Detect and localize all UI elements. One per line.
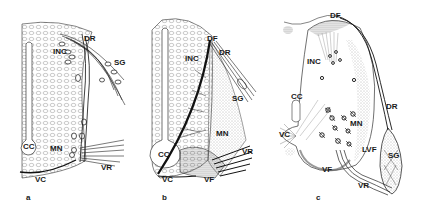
panel-b-label-mn: MN [216,130,228,138]
panel-a-label-mn: MN [50,145,62,153]
panel-b-letter: b [162,193,167,202]
panel-a-drawing [20,22,125,178]
panel-b-label-df: DF [207,35,218,43]
panel-a-label-sg: SG [114,59,126,67]
panel-c-letter: c [316,193,320,202]
panel-a-label-cc: CC [23,143,35,151]
panel-b-label-dr: DR [219,49,231,57]
panel-a-label-vc: VC [35,176,46,184]
panel-b-label-sg: SG [232,95,244,103]
panel-c-central-canal [292,100,300,122]
panel-c-label-df: DF [330,12,341,20]
panel-a-letter: a [26,193,30,202]
panel-b-label-vc: VC [162,176,173,184]
panel-c-drawing [280,15,402,195]
spinal-cord-figure: DR INC SG CC MN VR VC a DF DR INC SG MN … [0,0,427,209]
panel-c-label-inc: INC [307,58,321,66]
panel-c-label-vr: VR [358,182,369,190]
panel-c-label-cc: CC [291,93,303,101]
panel-b-label-vf: VF [204,176,214,184]
panel-b-label-vr: VR [242,148,253,156]
panel-c-label-mn: MN [350,120,362,128]
panel-b-label-cc: CC [158,151,170,159]
panel-a-label-vr: VR [101,164,112,172]
panel-a-label-inc: INC [53,48,67,56]
panel-b-label-inc: INC [185,55,199,63]
panel-c-label-sg: SG [388,152,400,160]
panel-c-label-dr: DR [386,103,398,111]
panel-c-label-vf: VF [322,166,332,174]
panel-c-label-vc: VC [279,131,290,139]
panel-c-label-lvf: LVF [362,146,377,154]
panel-a-label-dr: DR [84,35,96,43]
